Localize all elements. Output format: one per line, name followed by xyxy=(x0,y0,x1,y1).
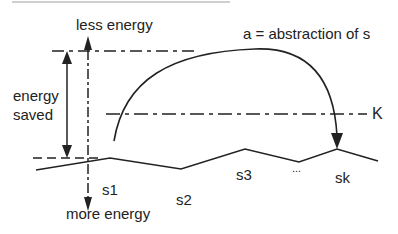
threshold-k-label: K xyxy=(372,106,383,122)
abstraction-label: a = abstraction of s xyxy=(243,26,370,41)
energy-saved-label-line2: saved xyxy=(13,107,53,122)
more-energy-label: more energy xyxy=(66,206,150,221)
energy-saved-arrowhead-top-icon xyxy=(62,51,72,64)
energy-saved-label-line1: energy xyxy=(13,88,59,103)
state-s3-label: s3 xyxy=(236,167,252,182)
state-sk-label: sk xyxy=(335,170,350,185)
energy-saved-arrowhead-bottom-icon xyxy=(62,145,72,158)
state-s2-label: s2 xyxy=(176,192,192,207)
diagram-canvas: less energy energy saved a = abstraction… xyxy=(0,0,398,234)
less-energy-label: less energy xyxy=(76,17,153,32)
state-s1-label: s1 xyxy=(102,182,118,197)
abstraction-curve xyxy=(114,49,337,141)
ellipsis-label: ... xyxy=(292,163,301,174)
abstraction-arrowhead-icon xyxy=(331,133,343,149)
up-arrow-icon xyxy=(84,36,92,50)
